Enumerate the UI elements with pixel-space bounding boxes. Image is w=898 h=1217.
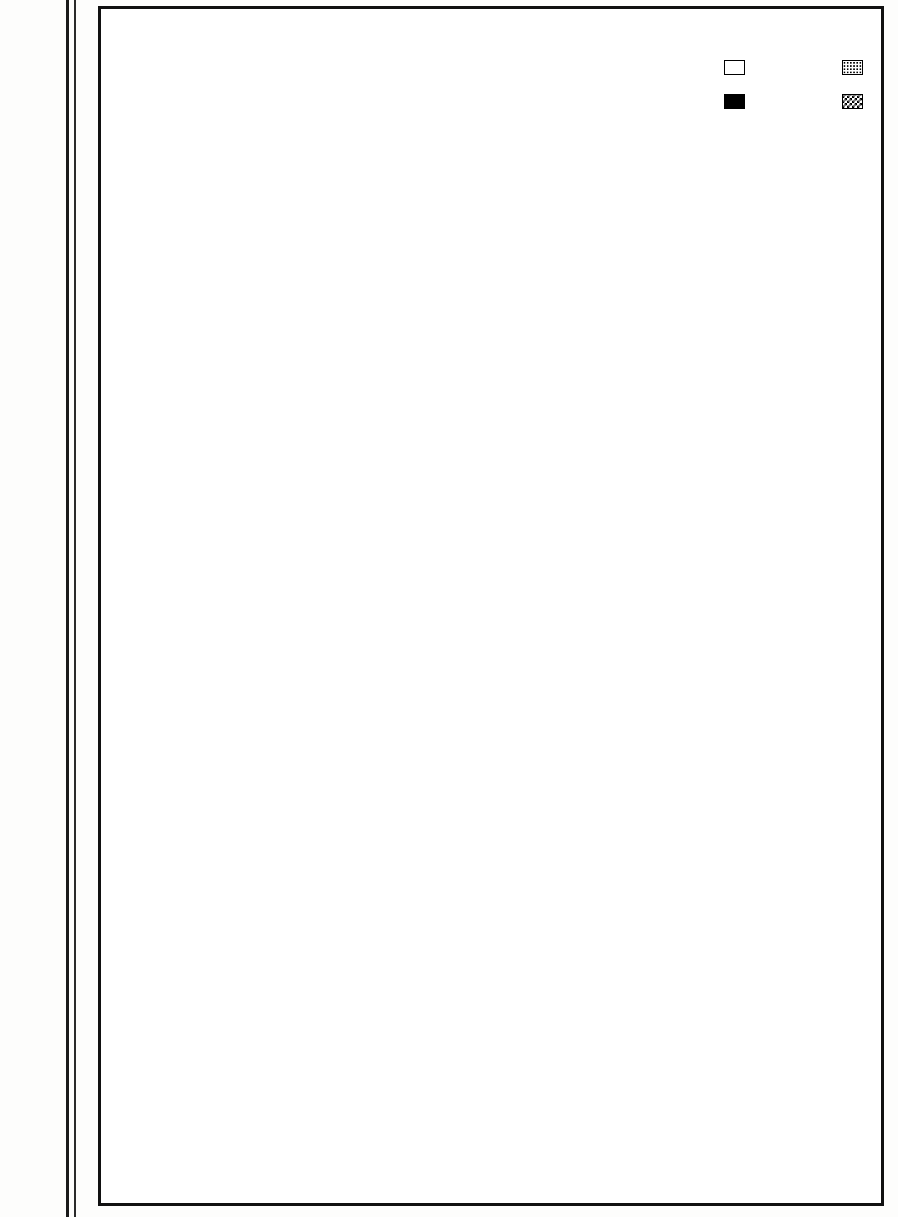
chart-income [101, 569, 887, 1049]
chart-rankings [101, 129, 887, 559]
charts-container [101, 129, 887, 1129]
figure-title-block [20, 0, 80, 680]
legend-swatch-black-icon [724, 95, 745, 110]
legend-item-male-intake [835, 95, 863, 110]
legend-swatch-dotted-icon [842, 61, 863, 76]
figure-frame [98, 6, 884, 1206]
legend-swatch-checker-icon [842, 95, 863, 110]
legend-item-income [717, 61, 745, 76]
chart-legend [123, 45, 863, 119]
legend-swatch-white-icon [724, 61, 745, 76]
legend-row-2 [123, 51, 863, 85]
legend-item-female-intake [835, 61, 863, 76]
legend-item-infant-survival [717, 95, 745, 110]
page-canvas [0, 0, 898, 1217]
legend-row-1 [123, 85, 863, 119]
